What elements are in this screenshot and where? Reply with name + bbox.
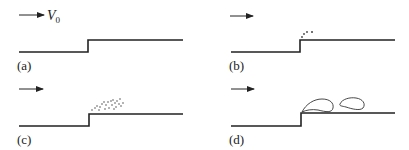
panel-b: (b): [229, 16, 395, 73]
step-profile: [19, 40, 183, 52]
step-profile: [19, 114, 183, 126]
panel-c: (c): [17, 89, 183, 147]
step-profile: [231, 40, 395, 52]
step-flow-diagram: V0 (a) (b) (c): [0, 0, 409, 150]
panel-d: (d): [229, 89, 395, 147]
panel-a: V0 (a): [17, 8, 183, 73]
panel-label-c: (c): [17, 132, 31, 147]
step-profile: [231, 113, 395, 126]
panel-label-b: (b): [229, 58, 244, 73]
panel-label-d: (d): [229, 132, 244, 147]
separation-bubble: [302, 99, 333, 112]
panel-label-a: (a): [17, 58, 31, 73]
velocity-label: V0: [47, 8, 61, 25]
particles: [301, 31, 313, 38]
shed-vortex: [340, 98, 364, 110]
particle-cloud: [91, 98, 124, 111]
